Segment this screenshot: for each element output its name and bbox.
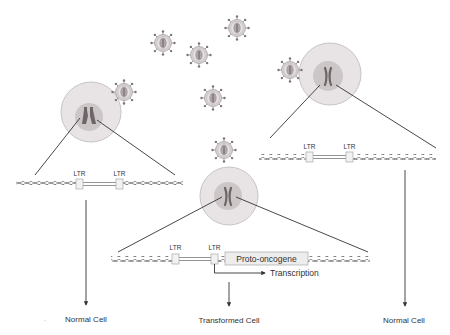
ltr-box xyxy=(346,152,353,162)
ltr-label: LTR xyxy=(170,244,182,251)
virus-particle xyxy=(224,15,249,40)
ltr-label: LTR xyxy=(114,170,126,177)
ltr-label: LTR xyxy=(344,143,356,150)
ltr-box xyxy=(172,254,179,264)
right-dna-strand: LTR LTR xyxy=(259,143,436,162)
ltr-label: LTR xyxy=(209,244,221,251)
zoom-line xyxy=(236,197,368,252)
ltr-label: LTR xyxy=(74,170,86,177)
left-dna-strand: LTR LTR xyxy=(16,170,183,189)
transcription-arrow xyxy=(215,264,266,273)
virus-particle xyxy=(200,85,225,110)
zoom-line xyxy=(35,118,80,175)
middle-outcome-label: Transformed Cell xyxy=(198,316,259,325)
virus-attached xyxy=(111,79,136,104)
virus-attached xyxy=(277,57,302,82)
right-host-cell xyxy=(299,43,361,105)
ltr-box xyxy=(211,254,218,264)
right-outcome-label: Normal Cell xyxy=(383,316,425,325)
virus-particle xyxy=(150,30,175,55)
virus-particle xyxy=(186,42,211,67)
zoom-line xyxy=(97,120,175,175)
left-outcome-label: Normal Cell xyxy=(65,315,107,324)
ltr-box xyxy=(116,179,123,189)
ltr-label: LTR xyxy=(304,143,316,150)
transcription-label: Transcription xyxy=(270,268,319,278)
ltr-box xyxy=(306,152,313,162)
ltr-box xyxy=(76,179,83,189)
zoom-line xyxy=(270,85,320,138)
proto-oncogene-label: Proto-oncogene xyxy=(236,254,297,264)
diagram-canvas: LTR LTR · Normal Cell LTR LTR Normal Cel… xyxy=(0,0,450,335)
middle-host-cell xyxy=(200,167,258,225)
virus-attached xyxy=(211,137,236,162)
zoom-line xyxy=(336,85,436,148)
dot-mark: · xyxy=(44,317,46,323)
middle-dna-strand: LTR LTR Proto-oncogene xyxy=(111,244,370,265)
